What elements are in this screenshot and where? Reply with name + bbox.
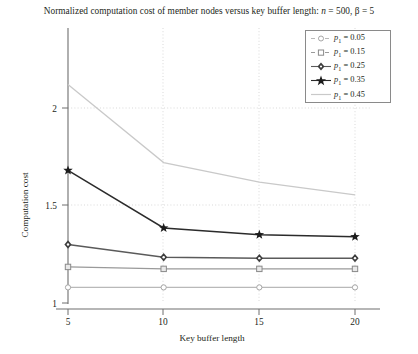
x-tick-labels: 5 10 15 20 [66,317,360,327]
legend-label-p1-025: p1 = 0.25 [334,61,365,72]
legend-item-p1-025[interactable]: p1 = 0.25 [306,59,390,73]
x-tick-label-10: 10 [158,317,168,327]
legend-label-p1-005: p1 = 0.05 [334,33,365,44]
x-tick-label-15: 15 [254,317,264,327]
data-point-square-open [257,266,262,271]
data-point-circle-open [257,285,262,290]
legend-item-p1-035[interactable]: p1 = 0.35 [306,74,390,88]
legend-label-p1-035: p1 = 0.35 [334,75,365,86]
data-point-star-filled [159,223,169,232]
legend-marker-diamond-filled [310,60,332,73]
data-point-diamond-filled [64,240,71,248]
legend-item-p1-015[interactable]: p1 = 0.15 [306,45,390,59]
x-tick-label-20: 20 [350,317,360,327]
legend-marker-square-open [310,46,332,59]
legend-marker-circle-open [310,32,332,45]
x-tick-label-5: 5 [66,317,71,327]
y-tick-label-2: 2 [52,104,57,114]
data-point-circle-open [65,285,70,290]
x-axis-label: Key buffer length [179,333,245,343]
series-0 [65,285,357,290]
legend-marker-plain-line [310,88,332,101]
y-axis-label: Computation cost [20,172,30,238]
data-point-square-open [161,266,166,271]
legend: p1 = 0.05 p1 = 0.15 p1 = 0.25 p1 = 0.35 … [305,30,391,103]
data-point-diamond-filled [160,253,167,261]
legend-label-p1-015: p1 = 0.15 [334,47,365,58]
legend-item-p1-005[interactable]: p1 = 0.05 [306,31,390,45]
data-point-star-filled [255,230,265,239]
series-1 [65,264,357,271]
series-line [68,267,355,269]
legend-item-p1-045[interactable]: p1 = 0.45 [306,88,390,102]
y-tick-label-1.5: 1.5 [45,201,57,211]
x-tick-marks [68,309,355,315]
data-point-diamond-filled [351,254,358,262]
data-point-square-open [65,264,70,269]
series-layer [63,85,360,290]
y-tick-label-1: 1 [52,299,57,309]
series-3 [63,165,360,240]
data-point-circle-open [161,285,166,290]
series-line [68,245,355,259]
data-point-circle-open [352,285,357,290]
series-line [68,170,355,236]
series-2 [64,240,358,262]
data-point-square-open [352,266,357,271]
figure: Normalized computation cost of member no… [0,0,418,354]
data-point-diamond-filled [256,254,263,262]
legend-label-p1-045: p1 = 0.45 [334,90,365,101]
y-tick-labels: 2 1.5 1 [45,104,57,309]
y-tick-marks [62,108,68,303]
legend-marker-star-filled [310,74,332,87]
